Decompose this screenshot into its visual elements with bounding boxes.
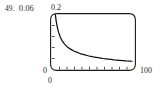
figure-caption: 49.0.06: [5, 3, 34, 14]
caption-index: 49.: [5, 4, 15, 13]
x-axis-min-label: 0: [48, 76, 52, 85]
figure-panel: 49.0.06 0.2 0 0 100: [0, 0, 162, 89]
x-axis-ticks: [60, 67, 128, 70]
plot-area: [50, 13, 136, 71]
caption-value: 0.06: [19, 3, 34, 13]
y-axis-min-label: 0: [43, 66, 47, 75]
x-axis-max-label: 100: [140, 66, 152, 75]
data-series-line: [55, 15, 132, 62]
y-axis-max-label: 0.2: [51, 3, 61, 12]
decay-curve-plot: [50, 13, 136, 71]
y-axis-ticks: [52, 26, 55, 59]
